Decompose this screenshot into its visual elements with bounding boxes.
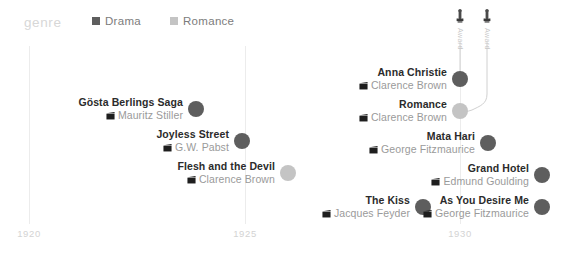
event-text: Romance Clarence Brown: [359, 99, 452, 123]
axis-tick-1930: 1930: [448, 228, 472, 239]
legend-label-drama: Drama: [105, 15, 141, 27]
event-mata-hari[interactable]: Mata Hari George Fitzmaurice: [0, 128, 496, 158]
event-title: Grand Hotel: [431, 163, 529, 174]
event-text: Anna Christie Clarence Brown: [359, 67, 452, 91]
event-grand-hotel[interactable]: Grand Hotel Edmund Goulding: [0, 160, 550, 190]
event-text: Grand Hotel Edmund Goulding: [431, 163, 534, 187]
event-dot[interactable]: [480, 135, 496, 151]
oscar-icon: [454, 8, 466, 30]
event-title: As You Desire Me: [423, 195, 529, 206]
event-director-name: Edmund Goulding: [443, 176, 529, 187]
event-text: Mata Hari George Fitzmaurice: [369, 131, 480, 155]
event-director: Clarence Brown: [359, 80, 447, 91]
event-dot[interactable]: [534, 167, 550, 183]
event-director: Clarence Brown: [359, 112, 447, 123]
legend-item-romance[interactable]: Romance: [170, 15, 234, 27]
event-director-name: Clarence Brown: [371, 80, 447, 91]
legend-label-romance: Romance: [183, 15, 234, 27]
clapperboard-icon: [359, 81, 368, 90]
axis-tick-1925: 1925: [233, 228, 257, 239]
event-director: George Fitzmaurice: [369, 144, 475, 155]
legend-swatch-romance: [170, 17, 178, 25]
event-director-name: Clarence Brown: [371, 112, 447, 123]
event-director-name: George Fitzmaurice: [435, 208, 529, 219]
event-director: George Fitzmaurice: [423, 208, 529, 219]
event-director-name: George Fitzmaurice: [381, 144, 475, 155]
event-romance[interactable]: Romance Clarence Brown: [0, 96, 468, 126]
axis-tick-1920: 1920: [17, 228, 41, 239]
clapperboard-icon: [423, 209, 432, 218]
event-dot[interactable]: [452, 71, 468, 87]
oscar-icon: [481, 8, 493, 30]
clapperboard-icon: [359, 113, 368, 122]
event-anna-christie[interactable]: Anna Christie Clarence Brown: [0, 64, 468, 94]
timeline-chart: genre Drama Romance 1920 1925 1930 Award: [0, 0, 568, 254]
event-title: Anna Christie: [359, 67, 447, 78]
award-label-1: Award: [457, 28, 464, 50]
award-label-2: Award: [484, 28, 491, 50]
event-dot[interactable]: [452, 103, 468, 119]
event-dot[interactable]: [534, 199, 550, 215]
event-title: Romance: [359, 99, 447, 110]
legend-swatch-drama: [92, 17, 100, 25]
clapperboard-icon: [369, 145, 378, 154]
clapperboard-icon: [431, 177, 440, 186]
event-title: Mata Hari: [369, 131, 475, 142]
legend-item-drama[interactable]: Drama: [92, 15, 141, 27]
event-as-you-desire-me[interactable]: As You Desire Me George Fitzmaurice: [0, 192, 550, 222]
legend-title: genre: [24, 15, 62, 30]
event-text: As You Desire Me George Fitzmaurice: [423, 195, 534, 219]
event-director: Edmund Goulding: [431, 176, 529, 187]
